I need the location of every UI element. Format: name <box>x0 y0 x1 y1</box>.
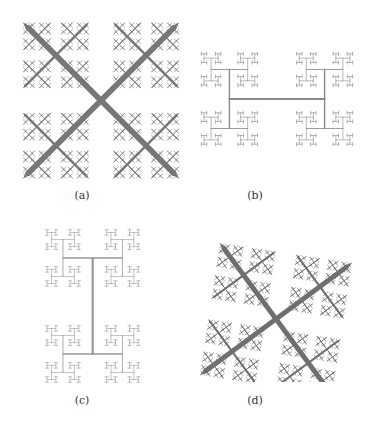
caption-a: (a) <box>62 189 102 202</box>
panel-c <box>18 226 184 386</box>
caption-b: (b) <box>235 189 275 202</box>
fractal-a-image <box>18 18 184 183</box>
panel-b <box>192 14 362 184</box>
fractal-c-image <box>18 226 184 386</box>
panel-a <box>18 18 184 183</box>
fractal-b-image <box>192 14 362 184</box>
caption-d: (d) <box>235 394 275 407</box>
panel-d <box>196 232 356 382</box>
caption-c: (c) <box>62 394 102 407</box>
fractal-d-image <box>196 232 356 382</box>
